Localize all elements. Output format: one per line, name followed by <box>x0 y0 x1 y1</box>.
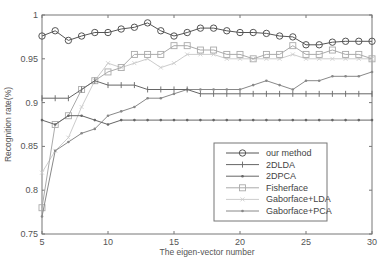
chart-svg: 0.750.80.850.90.95151015202530The eigen-… <box>0 0 386 269</box>
legend-label: Gaborface+LDA <box>266 194 331 204</box>
x-axis-label: The eigen-vector number <box>160 247 255 257</box>
legend-label: our method <box>266 148 312 158</box>
y-tick-label: 0.9 <box>25 98 38 108</box>
y-tick-label: 0.85 <box>20 141 38 151</box>
legend-marker-dot-icon <box>241 175 244 178</box>
x-tick-label: 15 <box>169 237 179 247</box>
legend-label: Fisherface <box>266 183 308 193</box>
x-tick-label: 10 <box>103 237 113 247</box>
legend-label: Gaborface+PCA <box>266 206 332 216</box>
x-tick-label: 25 <box>301 237 311 247</box>
legend-marker-dot-icon <box>241 210 244 213</box>
x-tick-label: 20 <box>235 237 245 247</box>
legend-label: 2DLDA <box>266 160 295 170</box>
y-axis-label: Recognition rate(%) <box>3 87 13 162</box>
x-tick-label: 30 <box>367 237 377 247</box>
legend-label: 2DPCA <box>266 171 296 181</box>
y-tick-label: 0.8 <box>25 185 38 195</box>
y-tick-label: 0.95 <box>20 54 38 64</box>
y-tick-label: 1 <box>33 10 38 20</box>
line-chart-figure: 0.750.80.850.90.95151015202530The eigen-… <box>0 0 386 269</box>
y-tick-label: 0.75 <box>20 229 38 239</box>
x-tick-label: 5 <box>39 237 44 247</box>
